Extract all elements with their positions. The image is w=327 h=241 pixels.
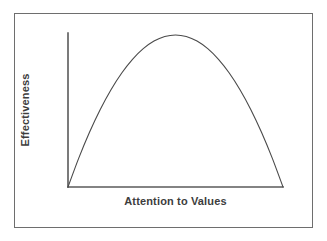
- data-curve: [68, 35, 283, 187]
- y-axis-label: Effectiveness: [20, 74, 32, 147]
- chart-figure: Effectiveness Attention to Values: [0, 0, 327, 241]
- x-axis-label: Attention to Values: [68, 195, 283, 207]
- y-axis-label-container: Effectiveness: [0, 33, 62, 187]
